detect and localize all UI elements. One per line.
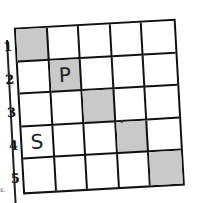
grid-cell-r4-c2[interactable] bbox=[53, 124, 86, 158]
grid-cell-r3-c2[interactable] bbox=[51, 91, 84, 125]
grid-cell-r5-c1[interactable] bbox=[23, 158, 56, 192]
grid-cell-r2-c1[interactable] bbox=[18, 60, 51, 94]
row-label-1: 1 bbox=[2, 41, 15, 54]
grid-cell-r1-c5[interactable] bbox=[142, 21, 175, 55]
grid-cell-r5-c4[interactable] bbox=[118, 153, 151, 187]
grid-cell-r2-c2[interactable]: P bbox=[49, 59, 82, 93]
pencil-dot-mark bbox=[120, 120, 123, 123]
grid-cell-r2-c4[interactable] bbox=[112, 55, 145, 89]
grid-cell-r4-c4[interactable] bbox=[116, 120, 149, 154]
grid-cell-r5-c3[interactable] bbox=[86, 154, 119, 188]
grid-cell-r4-c3[interactable] bbox=[84, 122, 117, 156]
row-label-3: 3 bbox=[5, 107, 18, 120]
row-label-4: 4 bbox=[7, 140, 20, 153]
grid-cell-r2-c3[interactable] bbox=[81, 57, 114, 91]
grid-cell-r1-c1[interactable] bbox=[16, 28, 49, 62]
row-label-5: 5 bbox=[9, 173, 22, 186]
grid-cell-r3-c1[interactable] bbox=[20, 93, 53, 127]
grid-cell-r3-c4[interactable] bbox=[114, 88, 147, 122]
grid-cell-r5-c2[interactable] bbox=[55, 156, 88, 190]
cell-letter: S bbox=[30, 129, 44, 154]
row-label-2: 2 bbox=[3, 74, 16, 87]
grid-cell-r1-c2[interactable] bbox=[47, 26, 80, 60]
grid-puzzle: 1 2 3 4 5 PS bbox=[0, 0, 206, 203]
cell-letter: P bbox=[58, 62, 71, 87]
grid-cell-r3-c5[interactable] bbox=[146, 86, 179, 120]
grid-cell-r2-c5[interactable] bbox=[144, 53, 177, 87]
grid-cell-r4-c5[interactable] bbox=[148, 118, 181, 152]
grid-cell-r3-c3[interactable] bbox=[83, 89, 116, 123]
grid-cell-r1-c3[interactable] bbox=[79, 24, 112, 58]
grid-cell-r5-c5[interactable] bbox=[149, 151, 182, 185]
grid-cell-r4-c1[interactable]: S bbox=[21, 125, 54, 159]
grid-cell-r1-c4[interactable] bbox=[111, 23, 144, 57]
puzzle-grid: PS bbox=[14, 19, 185, 195]
